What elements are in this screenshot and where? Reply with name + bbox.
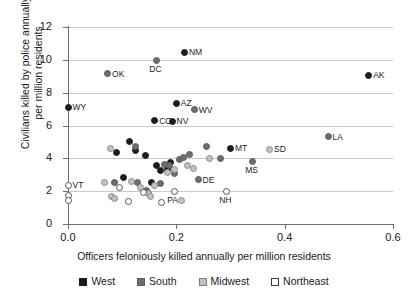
data-point — [120, 174, 127, 181]
data-point — [266, 146, 273, 153]
data-point — [164, 169, 171, 176]
legend-label: Midwest — [211, 276, 250, 287]
x-axis-line — [68, 224, 394, 225]
data-point-label: OK — [112, 70, 124, 79]
data-point-label: NM — [189, 48, 202, 57]
data-point — [107, 145, 114, 152]
data-point-label: NH — [219, 196, 231, 205]
legend-swatch-icon — [137, 278, 145, 286]
x-tick-label: 0.2 — [154, 231, 198, 243]
legend-label: South — [149, 276, 176, 287]
data-point — [227, 145, 234, 152]
legend-swatch-icon — [271, 278, 279, 286]
x-tick-label: 0.0 — [46, 231, 90, 243]
y-tick-label: 0 — [12, 218, 52, 229]
data-point-label: WY — [73, 103, 87, 112]
chart-legend: WestSouthMidwestNortheast — [0, 276, 408, 287]
gridline — [68, 158, 393, 159]
gridline — [68, 191, 393, 192]
legend-item-south[interactable]: South — [137, 276, 176, 287]
data-point — [178, 197, 185, 204]
y-tick-label: 6 — [12, 120, 52, 131]
data-point — [181, 49, 188, 56]
data-point-label: AZ — [181, 99, 192, 108]
data-point — [325, 133, 332, 140]
legend-label: Northeast — [283, 276, 329, 287]
gridline — [68, 60, 393, 61]
y-tick-label: 4 — [12, 152, 52, 163]
data-point — [65, 182, 72, 189]
data-point-label: SD — [274, 145, 286, 154]
y-tick-label: 12 — [12, 21, 52, 32]
data-point — [125, 198, 132, 205]
data-point — [206, 155, 213, 162]
data-point — [169, 118, 176, 125]
data-point — [65, 104, 72, 111]
y-tick-label: 8 — [12, 87, 52, 98]
data-point — [158, 199, 165, 206]
data-point-label: VT — [73, 181, 84, 190]
gridline — [68, 27, 393, 28]
data-point — [190, 165, 197, 172]
data-point — [171, 166, 178, 173]
data-point — [101, 179, 108, 186]
data-point-label: AK — [373, 71, 384, 80]
data-point — [365, 72, 372, 79]
data-point — [147, 193, 154, 200]
y-tick-label: 2 — [12, 185, 52, 196]
data-point — [173, 100, 180, 107]
legend-item-midwest[interactable]: Midwest — [199, 276, 250, 287]
scatter-chart: Civilians killed by police annually per … — [0, 0, 408, 305]
data-point — [195, 176, 202, 183]
y-tick-label: 10 — [12, 54, 52, 65]
data-point — [217, 155, 224, 162]
data-point — [191, 106, 198, 113]
data-point-label: WV — [199, 106, 213, 115]
data-point-label: PA — [167, 196, 178, 205]
data-point — [111, 195, 118, 202]
data-point — [65, 197, 72, 204]
legend-swatch-icon — [79, 278, 87, 286]
data-point-label: DE — [203, 176, 215, 185]
data-point-label: NV — [177, 117, 189, 126]
data-point — [113, 149, 120, 156]
data-point-label: LA — [333, 133, 343, 142]
data-point — [151, 117, 158, 124]
data-point — [151, 182, 158, 189]
x-tick-label: 0.4 — [263, 231, 307, 243]
data-point — [104, 70, 111, 77]
x-axis-title: Officers feloniously killed annually per… — [0, 250, 408, 262]
gridline — [68, 93, 393, 94]
data-point-label: MS — [245, 166, 258, 175]
legend-item-northeast[interactable]: Northeast — [271, 276, 329, 287]
data-point-label: DC — [149, 65, 161, 74]
data-point-label: MT — [235, 144, 247, 153]
legend-item-west[interactable]: West — [79, 276, 115, 287]
data-point — [203, 143, 210, 150]
gridline — [68, 126, 393, 127]
data-point — [186, 151, 193, 158]
legend-label: West — [91, 276, 115, 287]
legend-swatch-icon — [199, 278, 207, 286]
x-tick-label: 0.6 — [371, 231, 408, 243]
